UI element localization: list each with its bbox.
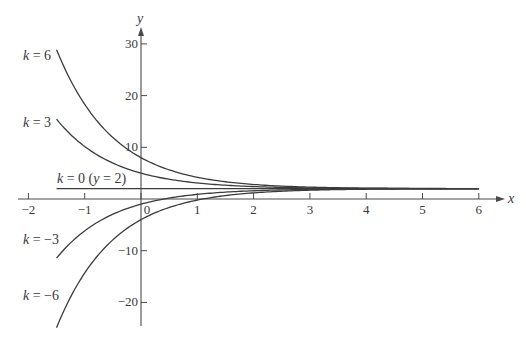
x-tick-label: −2 [21, 202, 35, 217]
labels: k = 6k = 3k = 0 (y = 2)k = −3k = −6 [23, 48, 126, 303]
curve-label: k = −3 [23, 232, 59, 247]
x-axis-label: x [507, 191, 515, 206]
x-tick-label: 6 [476, 202, 483, 217]
x-tick-label: 2 [250, 202, 257, 217]
solution-curves-chart: xy−2−10123456302010−10−20 k = 6k = 3k = … [0, 0, 526, 341]
y-tick-label: 30 [125, 36, 138, 51]
curve-label: k = 6 [23, 48, 51, 63]
curves [57, 50, 479, 328]
x-tick-label: −1 [78, 202, 92, 217]
y-axis-label: y [135, 11, 144, 26]
curve-label: k = −6 [23, 288, 59, 303]
y-tick-label: −20 [118, 294, 138, 309]
solution-curve [57, 50, 479, 189]
x-tick-label: 5 [419, 202, 426, 217]
y-tick-label: −10 [118, 243, 138, 258]
curve-label: k = 3 [23, 115, 51, 130]
curve-label: k = 0 (y = 2) [57, 171, 126, 187]
x-tick-label: 4 [363, 202, 370, 217]
y-tick-label: 20 [125, 88, 138, 103]
y-axis-arrow-icon [138, 27, 144, 36]
x-axis-arrow-icon [496, 196, 505, 202]
x-tick-label: 3 [307, 202, 314, 217]
x-tick-label: 1 [194, 202, 201, 217]
axes: xy−2−10123456302010−10−20 [18, 11, 515, 326]
